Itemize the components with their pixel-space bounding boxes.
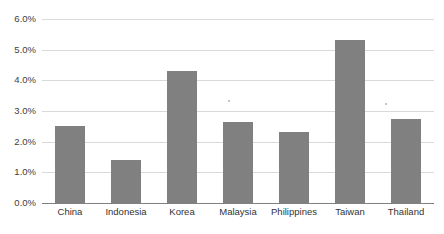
bar	[391, 119, 422, 203]
bar	[111, 160, 142, 203]
y-axis-tick-label: 4.0%	[0, 76, 36, 86]
x-axis-category-label: Indonesia	[98, 206, 154, 217]
y-axis-tick-label: 0.0%	[0, 198, 36, 208]
artifact-speck	[385, 103, 387, 105]
x-axis-category-label: Philippines	[266, 206, 322, 217]
bar	[335, 40, 366, 203]
plot-area: 0.0%1.0%2.0%3.0%4.0%5.0%6.0%	[42, 19, 434, 203]
x-axis-category-label: Korea	[154, 206, 210, 217]
bar-slot	[154, 19, 210, 203]
bar-chart: 0.0%1.0%2.0%3.0%4.0%5.0%6.0% ChinaIndone…	[0, 0, 444, 234]
bar-slot	[322, 19, 378, 203]
axis-baseline	[42, 203, 434, 204]
bar-slot	[98, 19, 154, 203]
artifact-speck	[228, 100, 230, 102]
x-axis-category-label: Malaysia	[210, 206, 266, 217]
x-axis-category-label: Taiwan	[322, 206, 378, 217]
bar-slot	[210, 19, 266, 203]
bar-slot	[42, 19, 98, 203]
x-axis-category-label: China	[42, 206, 98, 217]
x-axis-category-label: Thailand	[378, 206, 434, 217]
x-axis-labels: ChinaIndonesiaKoreaMalaysiaPhilippinesTa…	[42, 206, 434, 217]
y-axis-tick-label: 6.0%	[0, 14, 36, 24]
bar	[279, 132, 310, 203]
bar	[55, 126, 86, 203]
bar	[223, 122, 254, 203]
bar-slot	[266, 19, 322, 203]
y-axis-tick-label: 2.0%	[0, 137, 36, 147]
bar-series	[42, 19, 434, 203]
y-axis-tick-label: 3.0%	[0, 106, 36, 116]
bar-slot	[378, 19, 434, 203]
y-axis-tick-label: 5.0%	[0, 45, 36, 55]
y-axis-tick-label: 1.0%	[0, 168, 36, 178]
bar	[167, 71, 198, 203]
